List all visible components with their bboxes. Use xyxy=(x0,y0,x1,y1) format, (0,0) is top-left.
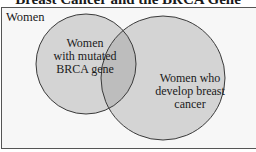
set-brca-label: Women with mutated BRCA gene xyxy=(40,37,130,76)
set-breast-cancer-label: Women who develop breast cancer xyxy=(143,72,237,111)
universe-label: Women xyxy=(6,11,45,24)
label-line: cancer xyxy=(143,98,237,111)
label-line: BRCA gene xyxy=(40,63,130,76)
